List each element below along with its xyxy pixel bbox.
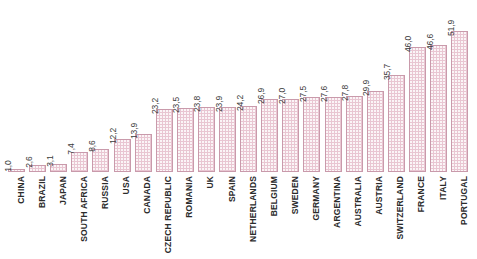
bar[interactable] — [240, 106, 257, 172]
bar-value-text: 27,8 — [341, 85, 350, 101]
bar-value-label: 23,8 — [197, 96, 206, 112]
bar-value-text: 12,2 — [109, 128, 118, 144]
bar-value-label: 27,0 — [282, 88, 291, 104]
category-label: BELGIUM — [270, 176, 279, 216]
bar-value-label: 26,9 — [261, 88, 270, 104]
bar-value-text: 3,1 — [45, 155, 54, 167]
bar-value-label: 23,9 — [219, 96, 228, 112]
plot-area: 1,0CHINA2,6BRAZIL3,1JAPAN7,4SOUTH AFRICA… — [0, 0, 477, 259]
bar-value-label: 27,5 — [303, 86, 312, 102]
bar[interactable] — [219, 107, 236, 172]
bar-value-text: 51,9 — [446, 20, 455, 36]
category-label: AUSTRIA — [375, 176, 384, 215]
category-label: ARGENTINA — [333, 176, 342, 228]
bar-value-text: 23,5 — [172, 97, 181, 113]
category-label: SWEDEN — [291, 176, 300, 214]
bar-value-text: 27,0 — [277, 88, 286, 104]
bar-value-label: 1,0 — [8, 160, 17, 172]
bar-value-label: 46,6 — [430, 34, 439, 50]
bar-value-label: 23,2 — [155, 98, 164, 114]
category-label: JAPAN — [59, 176, 68, 205]
bar[interactable] — [388, 75, 405, 172]
bar-value-label: 23,5 — [176, 97, 185, 113]
category-label: SPAIN — [228, 176, 237, 202]
bar[interactable] — [92, 149, 109, 172]
bar-value-label: 7,4 — [71, 143, 80, 155]
bar[interactable] — [282, 99, 299, 172]
bar-value-text: 27,5 — [298, 86, 307, 102]
bar-value-text: 27,6 — [320, 86, 329, 102]
bar-value-label: 8,6 — [92, 140, 101, 152]
bar-value-label: 35,7 — [387, 64, 396, 80]
bar-value-text: 8,6 — [87, 140, 96, 152]
bar-chart: 1,0CHINA2,6BRAZIL3,1JAPAN7,4SOUTH AFRICA… — [0, 0, 477, 259]
bar-value-text: 23,9 — [214, 96, 223, 112]
category-label: CZECH REPUBLIC — [164, 176, 173, 253]
bar-value-label: 3,1 — [50, 155, 59, 167]
category-label: NETHERLANDS — [249, 176, 258, 242]
bar-value-text: 29,9 — [362, 80, 371, 96]
bar[interactable] — [135, 134, 152, 172]
bar[interactable] — [71, 152, 88, 172]
category-label: CHINA — [17, 176, 26, 204]
bar-value-text: 23,2 — [151, 98, 160, 114]
bar[interactable] — [367, 91, 384, 172]
bar-value-text: 26,9 — [256, 88, 265, 104]
bar-value-text: 23,8 — [193, 96, 202, 112]
bar-value-text: 13,9 — [130, 123, 139, 139]
category-label: AUSTRALIA — [354, 176, 363, 226]
bar-value-label: 27,6 — [324, 86, 333, 102]
category-label: RUSSIA — [101, 176, 110, 209]
bar-value-text: 1,0 — [3, 160, 12, 172]
bar-value-label: 29,9 — [366, 80, 375, 96]
bar-value-label: 2,6 — [29, 156, 38, 168]
bar-value-label: 27,8 — [345, 85, 354, 101]
bar-value-text: 24,2 — [235, 95, 244, 111]
category-label: ITALY — [439, 176, 448, 200]
category-label: SWITZERLAND — [396, 176, 405, 240]
category-label: PORTUGAL — [460, 176, 469, 225]
category-label: GERMANY — [312, 176, 321, 221]
bar[interactable] — [325, 97, 342, 172]
bar[interactable] — [409, 47, 426, 172]
bar-value-label: 12,2 — [113, 128, 122, 144]
category-label: UK — [206, 176, 215, 189]
category-label: SOUTH AFRICA — [80, 176, 89, 242]
category-label: USA — [122, 176, 131, 194]
category-label: ROMANIA — [185, 176, 194, 218]
bar[interactable] — [198, 107, 215, 172]
bar[interactable] — [261, 99, 278, 172]
bar-value-text: 46,6 — [425, 34, 434, 50]
bar-value-text: 35,7 — [383, 64, 392, 80]
bar-value-text: 7,4 — [66, 143, 75, 155]
bar[interactable] — [156, 109, 173, 172]
bar[interactable] — [451, 31, 468, 172]
bar-value-text: 46,0 — [404, 36, 413, 52]
bar[interactable] — [177, 108, 194, 172]
bar-value-label: 46,0 — [408, 36, 417, 52]
bar[interactable] — [430, 45, 447, 172]
bar[interactable] — [346, 96, 363, 172]
bar-value-label: 24,2 — [240, 95, 249, 111]
category-label: CANADA — [143, 176, 152, 214]
category-label: BRAZIL — [38, 176, 47, 208]
category-label: FRANCE — [417, 176, 426, 212]
bar-value-label: 51,9 — [451, 20, 460, 36]
bar-value-text: 2,6 — [24, 156, 33, 168]
bar-value-label: 13,9 — [134, 123, 143, 139]
bar[interactable] — [303, 97, 320, 172]
